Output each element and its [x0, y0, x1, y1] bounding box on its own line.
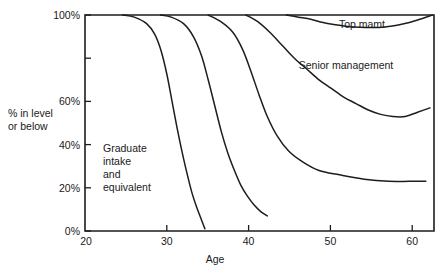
- x-tick-label-40: 40: [243, 235, 255, 247]
- y-tick-label-0: 0%: [65, 225, 80, 237]
- y-tick-label-100: 100%: [53, 9, 80, 21]
- annotation-graduate-line1: Graduate: [103, 142, 147, 154]
- y-axis-title-line2: or below: [8, 120, 48, 132]
- annotation-graduate-line3: and: [103, 168, 121, 180]
- x-tick-label-50: 50: [325, 235, 337, 247]
- career-level-chart: 100% 60% 40% 20% 0% 20 30 40 50 60 Age %…: [0, 0, 446, 269]
- x-tick-label-30: 30: [161, 235, 173, 247]
- y-axis-title-line1: % in level: [8, 107, 53, 119]
- y-tick-label-20: 20%: [59, 182, 80, 194]
- y-tick-label-40: 40%: [59, 139, 80, 151]
- x-axis-title: Age: [206, 253, 225, 265]
- chart-container: 100% 60% 40% 20% 0% 20 30 40 50 60 Age %…: [0, 0, 446, 269]
- annotation-senior-management: Senior management: [299, 59, 394, 71]
- x-tick-label-60: 60: [406, 235, 418, 247]
- annotation-graduate-line4: equivalent: [103, 181, 151, 193]
- annotation-top-mamt: Top mamt: [339, 18, 385, 30]
- annotation-graduate-line2: intake: [103, 155, 131, 167]
- y-tick-label-60: 60%: [59, 95, 80, 107]
- x-tick-label-20: 20: [80, 235, 92, 247]
